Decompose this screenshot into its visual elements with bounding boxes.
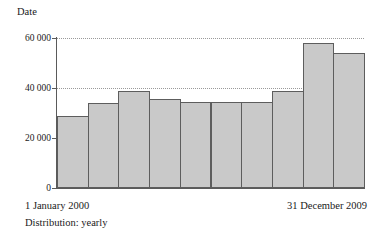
bar bbox=[211, 102, 243, 188]
bar bbox=[118, 91, 150, 189]
distribution-label: Distribution: yearly bbox=[25, 216, 108, 229]
x-axis-line bbox=[56, 188, 365, 189]
bar bbox=[333, 53, 365, 188]
bar bbox=[149, 99, 181, 188]
bar bbox=[57, 116, 89, 189]
bar bbox=[180, 102, 212, 188]
date-distribution-chart: Date 60 000 40 000 20 000 0 1 January 20… bbox=[0, 0, 385, 244]
range-start-label: 1 January 2000 bbox=[25, 199, 89, 212]
bar bbox=[272, 91, 304, 189]
bar bbox=[241, 102, 273, 188]
bar bbox=[303, 43, 335, 188]
range-end-label: 31 December 2009 bbox=[287, 199, 367, 212]
bar bbox=[88, 103, 120, 188]
